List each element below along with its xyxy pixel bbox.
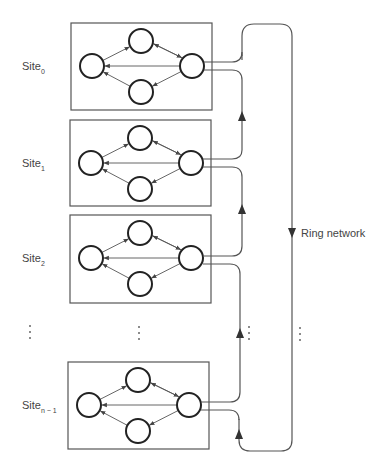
site-label: Siten − 1 (22, 399, 57, 414)
site0-out-link (204, 52, 242, 62)
edge-left-to-top (103, 47, 130, 61)
process-node-bottom (128, 177, 152, 201)
edge-left-to-top (102, 144, 129, 158)
link-arrow-icon (235, 429, 243, 439)
process-node-right (177, 393, 201, 417)
site2-to-site1-link (203, 167, 242, 256)
edge-right-to-top (153, 236, 182, 250)
process-node-right (180, 54, 204, 78)
process-node-left (77, 393, 101, 417)
link-arrow-icon (238, 204, 246, 214)
edge-bottom-to-left (103, 72, 130, 86)
edge-bottom-to-left (100, 411, 127, 425)
process-node-left (79, 246, 103, 270)
edge-right-to-top (153, 141, 182, 155)
ellipsis-ring-inner (248, 326, 250, 340)
ring-network (201, 24, 296, 451)
edge-left-to-top (100, 386, 127, 400)
site-label: Site0 (22, 60, 45, 75)
site-label: Site1 (22, 157, 45, 172)
edge-bottom-to-left (102, 264, 129, 278)
edge-right-to-top (151, 383, 180, 397)
ring-network-diagram: Site0Site1Site2Siten − 1 (0, 0, 381, 476)
site-1: Site1 (22, 120, 211, 206)
edge-left-to-top (102, 239, 129, 253)
ring-network-label: Ring network (301, 227, 366, 239)
ring-direction-arrow-icon (288, 228, 296, 238)
process-node-left (80, 54, 104, 78)
site-2: Site2 (22, 215, 211, 303)
process-node-right (179, 246, 203, 270)
process-node-right (179, 151, 203, 175)
process-node-left (79, 151, 103, 175)
ring-return-line (239, 24, 292, 451)
edge-right-to-bottom (150, 410, 179, 425)
link-arrow-icon (236, 328, 244, 338)
edge-bottom-to-left (102, 169, 129, 183)
process-node-top (126, 368, 150, 392)
process-node-bottom (129, 80, 153, 104)
edge-right-to-bottom (152, 168, 181, 183)
siten-in-link (201, 410, 239, 420)
ellipsis-box-column (138, 326, 140, 340)
edge-right-to-top (154, 44, 183, 58)
edge-right-to-bottom (152, 263, 181, 278)
process-node-bottom (126, 419, 150, 443)
site-label: Site2 (22, 252, 45, 267)
ellipsis-label-column (29, 325, 31, 339)
site1-to-site0-link (203, 70, 242, 159)
link-arrow-icon (238, 111, 246, 121)
siten-to-site2-link (201, 264, 240, 402)
sites-layer: Site0Site1Site2Siten − 1 (22, 23, 212, 449)
process-node-top (129, 29, 153, 53)
process-node-top (128, 126, 152, 150)
ellipsis-row (29, 325, 301, 341)
ellipsis-ring-outer (299, 327, 301, 341)
site-3: Siten − 1 (22, 362, 209, 449)
process-node-top (128, 221, 152, 245)
site-0: Site0 (22, 23, 212, 110)
edge-right-to-bottom (153, 71, 182, 86)
process-node-bottom (128, 272, 152, 296)
